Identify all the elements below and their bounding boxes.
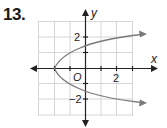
y-axis-down-arrow-icon (82, 120, 89, 127)
y-axis-up-arrow-icon (82, 9, 89, 16)
curve-lower-arrow-icon (139, 100, 147, 107)
y-axis-label: y (90, 6, 98, 20)
origin-label: O (73, 71, 82, 83)
x-tick-label-2: 2 (113, 72, 119, 84)
y-tick-label-2: 2 (74, 31, 80, 43)
x-axis-left-arrow-icon (30, 65, 37, 72)
x-axis-right-arrow-icon (151, 65, 158, 72)
curve-upper-arrow-icon (139, 31, 147, 38)
x-axis (34, 66, 154, 71)
x-axis-label: x (150, 52, 158, 66)
coordinate-plane: y x O 2 2 −2 (0, 0, 167, 128)
y-tick-label-neg2: −2 (69, 93, 82, 105)
